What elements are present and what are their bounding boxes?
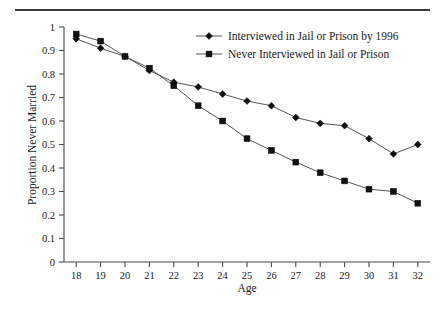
y-tick-label: 0.5: [42, 139, 55, 150]
y-tick-label: 0.4: [42, 163, 56, 174]
data-point-diamond: [195, 84, 202, 91]
x-tick-label: 21: [144, 270, 155, 281]
data-point-diamond: [317, 120, 324, 127]
y-tick-label: 0.6: [42, 116, 55, 127]
data-point-diamond: [390, 151, 397, 158]
legend-item-2: Never Interviewed in Jail or Prison: [196, 48, 390, 60]
data-point-diamond: [244, 98, 251, 105]
x-tick-label: 26: [266, 270, 277, 281]
legend-label-2: Never Interviewed in Jail or Prison: [228, 48, 390, 60]
data-point-diamond: [366, 135, 373, 142]
x-tick-label: 31: [388, 270, 399, 281]
x-tick-label: 23: [193, 270, 204, 281]
y-tick-label: 0.1: [42, 233, 55, 244]
x-axis-tick-label-group: 181920212223242526272829303132: [71, 270, 423, 281]
data-point-square: [366, 186, 372, 192]
data-point-square: [195, 103, 201, 109]
line-chart-figure: 00.10.20.30.40.50.60.70.80.91 1819202122…: [0, 0, 442, 313]
x-tick-label: 22: [169, 270, 180, 281]
data-point-square: [147, 65, 153, 71]
data-point-square: [220, 118, 226, 124]
y-tick-label: 0.3: [42, 186, 55, 197]
y-tick-label: 1: [50, 22, 55, 33]
data-point-square: [391, 189, 397, 195]
x-tick-label: 29: [339, 270, 350, 281]
chart-legend: Interviewed in Jail or Prison by 1996Nev…: [196, 30, 399, 60]
y-tick-label: 0.8: [42, 69, 55, 80]
data-point-diamond: [219, 91, 226, 98]
y-tick-label: 0.9: [42, 45, 55, 56]
x-tick-label: 32: [413, 270, 424, 281]
data-point-square: [171, 83, 177, 89]
x-tick-label: 28: [315, 270, 326, 281]
data-point-square: [122, 53, 128, 59]
x-tick-label: 24: [217, 270, 228, 281]
data-point-square: [342, 178, 348, 184]
x-tick-label: 20: [120, 270, 131, 281]
data-point-diamond: [97, 45, 104, 52]
chart-svg: 00.10.20.30.40.50.60.70.80.91 1819202122…: [0, 0, 442, 313]
x-axis-title: Age: [237, 282, 256, 295]
legend-marker-diamond: [206, 33, 213, 40]
data-point-square: [244, 136, 250, 142]
legend-marker-square: [206, 51, 212, 57]
legend-label-1: Interviewed in Jail or Prison by 1996: [228, 30, 399, 43]
data-point-square: [98, 38, 104, 44]
y-tick-label: 0: [50, 257, 55, 268]
data-point-square: [415, 200, 421, 206]
data-point-diamond: [268, 102, 275, 109]
y-tick-label: 0.2: [42, 210, 55, 221]
x-axis-tick-group: [76, 262, 418, 267]
data-point-square: [317, 170, 323, 176]
data-point-square: [269, 147, 275, 153]
x-tick-label: 19: [95, 270, 106, 281]
y-axis-tick-label-group: 00.10.20.30.40.50.60.70.80.91: [42, 22, 56, 268]
data-point-diamond: [414, 141, 421, 148]
y-axis-tick-group: [59, 27, 64, 262]
legend-item-1: Interviewed in Jail or Prison by 1996: [196, 30, 399, 43]
data-point-square: [73, 31, 79, 37]
x-tick-label: 27: [291, 270, 302, 281]
data-point-diamond: [292, 114, 299, 121]
x-tick-label: 18: [71, 270, 82, 281]
y-tick-label: 0.7: [42, 92, 55, 103]
data-point-diamond: [341, 122, 348, 129]
x-tick-label: 30: [364, 270, 375, 281]
x-tick-label: 25: [242, 270, 253, 281]
y-axis-title: Proportion Never Married: [26, 85, 39, 205]
data-point-square: [293, 159, 299, 165]
